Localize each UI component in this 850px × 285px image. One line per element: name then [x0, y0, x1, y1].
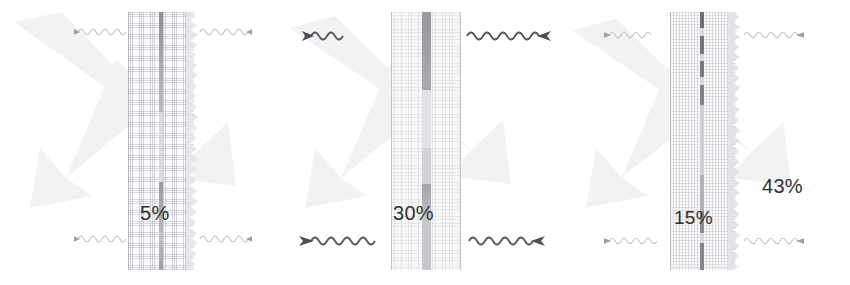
- specimen-core-line-c: [700, 12, 704, 270]
- core-segment: [700, 12, 704, 28]
- core-segment: [700, 28, 704, 36]
- wave-left-bottom-a: [72, 232, 128, 246]
- specimen-left-edge-c: [670, 12, 671, 270]
- core-segment: [700, 36, 704, 54]
- core-segment: [700, 54, 704, 61]
- wave-left-bottom-c: [602, 234, 668, 248]
- wave-right-bottom-c: [742, 234, 816, 248]
- shielding-percent-label-b: 30%: [393, 203, 434, 223]
- wave-right-top-a: [198, 25, 256, 39]
- transmission-percent-label-c: 43%: [762, 176, 803, 196]
- core-segment: [422, 148, 431, 184]
- specimen-strip-b: [391, 12, 461, 270]
- wave-left-bottom-b: [293, 232, 385, 250]
- wave-left-top-c: [602, 28, 666, 42]
- core-segment: [159, 12, 163, 112]
- core-segment: [700, 233, 704, 243]
- core-segment: [700, 175, 704, 211]
- specimen-right-edge-b: [460, 12, 461, 270]
- wave-left-top-b: [299, 27, 359, 45]
- core-segment: [159, 112, 163, 182]
- specimen-strip-a: [128, 12, 194, 270]
- specimen-strip-c: [670, 12, 736, 270]
- panel-specimen-a: 5%: [0, 0, 283, 285]
- core-segment: [700, 77, 704, 85]
- panel-specimen-b: 30%: [283, 0, 566, 285]
- wave-right-bottom-b: [465, 232, 557, 250]
- core-segment: [700, 85, 704, 105]
- shielding-figure: 5%: [0, 0, 850, 285]
- shielding-percent-label-a: 5%: [140, 203, 170, 223]
- core-segment: [700, 243, 704, 270]
- specimen-left-edge-b: [391, 12, 392, 270]
- shielding-percent-label-c: 15%: [674, 208, 713, 227]
- wave-right-bottom-a: [198, 232, 256, 246]
- core-segment: [700, 105, 704, 175]
- core-segment: [700, 61, 704, 77]
- specimen-core-line-a: [159, 12, 163, 270]
- wave-right-top-b: [465, 27, 557, 45]
- specimen-left-edge-a: [128, 12, 129, 270]
- core-segment: [422, 12, 431, 90]
- core-segment: [422, 90, 431, 148]
- core-segment: [159, 232, 163, 270]
- specimen-core-line-b: [422, 12, 431, 270]
- wave-left-top-a: [72, 25, 128, 39]
- panel-specimen-c: 15% 43%: [566, 0, 849, 285]
- wave-right-top-c: [742, 28, 816, 42]
- specimen-frayed-edge-c: [728, 12, 744, 270]
